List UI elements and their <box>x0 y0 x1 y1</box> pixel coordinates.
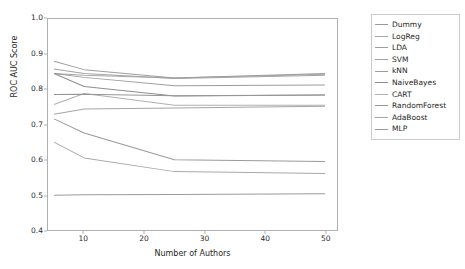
line-naivebayes <box>54 74 325 97</box>
legend-item-label: LDA <box>392 44 407 52</box>
legend-line-swatch <box>375 47 388 48</box>
legend-item-label: MLP <box>392 125 407 133</box>
x-tick-label: 40 <box>260 235 270 243</box>
legend-line-swatch <box>375 94 388 95</box>
x-tick-label: 10 <box>79 235 89 243</box>
line-lower-trend <box>54 142 325 173</box>
x-tick-mark <box>325 231 326 234</box>
legend-line-swatch <box>375 129 388 130</box>
legend: DummyLogRegLDASVMkNNNaiveBayesCARTRandom… <box>371 14 460 140</box>
legend-item-logreg[interactable]: LogReg <box>375 31 455 43</box>
legend-line-swatch <box>375 71 388 72</box>
y-tick-label: 0.7 <box>31 121 43 129</box>
legend-line-swatch <box>375 36 388 37</box>
line-dummy <box>54 194 325 195</box>
line-adaboost <box>54 106 325 114</box>
line-mlp <box>54 119 325 162</box>
legend-line-swatch <box>375 105 388 106</box>
legend-item-label: CART <box>392 91 412 99</box>
legend-line-swatch <box>375 24 388 25</box>
x-tick-mark <box>265 231 266 234</box>
legend-item-label: LogReg <box>392 33 420 41</box>
legend-item-randomforest[interactable]: RandomForest <box>375 100 455 112</box>
legend-item-knn[interactable]: kNN <box>375 65 455 77</box>
x-tick-label: 30 <box>200 235 210 243</box>
legend-item-label: Dummy <box>392 21 422 29</box>
legend-item-mlp[interactable]: MLP <box>375 123 455 135</box>
legend-line-swatch <box>375 59 388 60</box>
plot-area <box>47 18 338 231</box>
legend-item-label: RandomForest <box>392 102 446 110</box>
chart-figure: ROC AUC Score 0.40.50.60.70.80.91.0 1020… <box>0 0 465 269</box>
legend-item-adaboost[interactable]: AdaBoost <box>375 112 455 124</box>
x-tick-label: 50 <box>321 235 331 243</box>
y-tick-label: 1.0 <box>31 14 43 22</box>
legend-item-label: SVM <box>392 56 408 64</box>
legend-item-naivebayes[interactable]: NaiveBayes <box>375 77 455 89</box>
x-axis-label: Number of Authors <box>47 249 338 258</box>
y-tick-label: 0.5 <box>31 192 43 200</box>
legend-item-cart[interactable]: CART <box>375 89 455 101</box>
x-tick-mark <box>204 231 205 234</box>
y-tick-label: 0.9 <box>31 50 43 58</box>
y-tick-label: 0.4 <box>31 227 43 235</box>
legend-line-swatch <box>375 82 388 83</box>
x-axis-ticks: 1020304050 <box>47 235 338 247</box>
legend-item-label: kNN <box>392 67 408 75</box>
y-axis-label: ROC AUC Score <box>10 4 19 129</box>
legend-line-swatch <box>375 117 388 118</box>
y-axis-ticks: 0.40.50.60.70.80.91.0 <box>19 18 43 231</box>
legend-item-label: NaiveBayes <box>392 79 436 87</box>
chart-lines <box>48 19 337 230</box>
x-tick-mark <box>83 231 84 234</box>
y-tick-label: 0.8 <box>31 85 43 93</box>
legend-item-lda[interactable]: LDA <box>375 42 455 54</box>
legend-item-dummy[interactable]: Dummy <box>375 19 455 31</box>
x-tick-label: 20 <box>139 235 149 243</box>
y-tick-label: 0.6 <box>31 156 43 164</box>
legend-item-svm[interactable]: SVM <box>375 54 455 66</box>
x-tick-mark <box>144 231 145 234</box>
legend-item-label: AdaBoost <box>392 114 428 122</box>
